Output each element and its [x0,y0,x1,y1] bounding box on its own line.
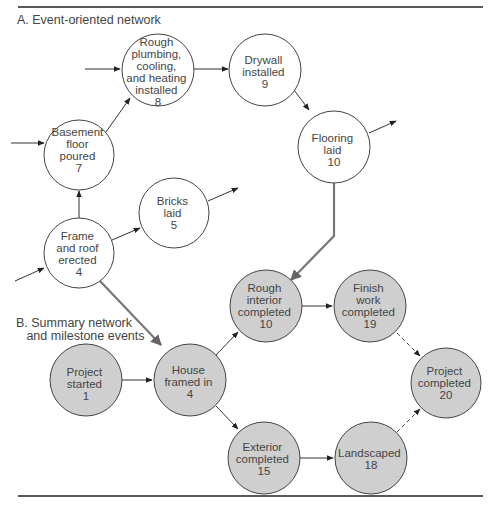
node-drywall: Drywall installed 9 [229,34,301,106]
node-basement: Basement floor poured 7 [44,120,114,190]
section-b-title-line2: and milestone events [16,329,145,343]
node-exterior: Exterior completed 15 [228,422,300,494]
node-project-completed: Project completed 20 [411,348,481,418]
node-rough-plumbing: Rough plumbing, cooling, and heating ins… [122,34,194,108]
node-flooring: Flooring laid 10 [298,111,370,183]
section-b-title-line1: B. Summary network [16,316,132,330]
edge-house-exterior [216,406,238,429]
edge-house-rough-interior [216,332,238,355]
edge-basement-rough-plumbing [106,98,130,132]
edge-finish-project-completed [397,333,420,356]
edge-flooring-out [369,121,396,133]
edge-in-frame [15,268,44,281]
edge-landscaped-project-completed [397,409,420,432]
node-rough-interior: Rough interior completed 10 [230,270,302,342]
network-diagram: Rough plumbing, cooling, and heating ins… [0,0,488,505]
node-project-started: Project started 1 [50,344,122,416]
edge-frame-bricks [112,228,140,240]
link-flooring-rough-interior [291,183,334,280]
node-house-framed: House framed in 4 [154,344,226,416]
node-frame-roof: Frame and roof erected 4 [44,218,114,288]
node-landscaped: Landscaped 18 [335,422,407,494]
section-a-title: A. Event-oriented network [17,13,161,27]
node-finish-work: Finish work completed 19 [334,270,406,342]
node-bricks: Bricks laid 5 [139,178,209,248]
edge-bricks-out [208,188,238,201]
